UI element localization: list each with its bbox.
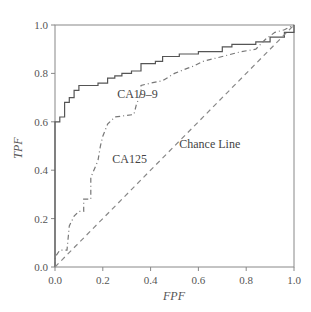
y-tick-label: 0.0 bbox=[34, 261, 48, 273]
y-axis-title: TPF bbox=[11, 137, 25, 159]
series-group bbox=[55, 25, 294, 267]
axis-ticks: 0.00.20.40.60.81.00.00.20.40.60.81.0 bbox=[34, 19, 301, 286]
annotation-ca19-9: CA19–9 bbox=[117, 87, 158, 101]
x-tick-label: 0.2 bbox=[96, 274, 110, 286]
y-tick-label: 0.8 bbox=[34, 67, 48, 79]
x-tick-label: 0.8 bbox=[239, 274, 253, 286]
y-tick-label: 0.2 bbox=[34, 213, 48, 225]
x-tick-label: 1.0 bbox=[287, 274, 301, 286]
x-tick-label: 0.4 bbox=[144, 274, 158, 286]
annotation-ca125: CA125 bbox=[112, 152, 147, 166]
series-chance-line bbox=[55, 25, 294, 267]
x-axis-title: FPF bbox=[162, 289, 186, 303]
y-tick-label: 0.6 bbox=[34, 116, 48, 128]
y-tick-label: 1.0 bbox=[34, 19, 48, 31]
x-tick-label: 0.6 bbox=[192, 274, 206, 286]
x-tick-label: 0.0 bbox=[48, 274, 62, 286]
annotation-chance-line: Chance Line bbox=[179, 137, 240, 151]
roc-chart: 0.00.20.40.60.81.00.00.20.40.60.81.0 CA1… bbox=[0, 0, 311, 312]
y-tick-label: 0.4 bbox=[34, 164, 48, 176]
